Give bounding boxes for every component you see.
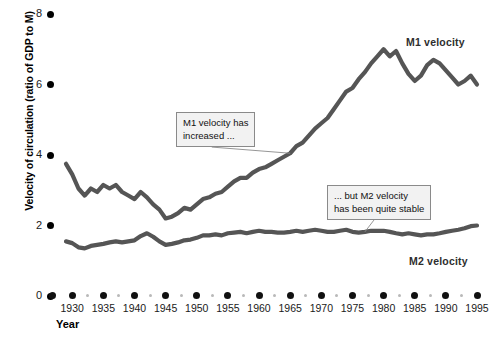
velocity-of-circulation-chart: Velocity of circulation (ratio of GDP to… [0,0,497,338]
m2-velocity-line [66,226,477,249]
m1-annotation-callout: M1 velocity has increased ... [176,112,255,147]
m1-velocity-label: M1 velocity [406,36,465,48]
plot-area [0,0,497,338]
m2-annotation-callout: ... but M2 velocity has been quite stabl… [327,185,431,220]
m2-velocity-label: M2 velocity [409,255,468,267]
m1-callout-leader-line [212,147,290,153]
